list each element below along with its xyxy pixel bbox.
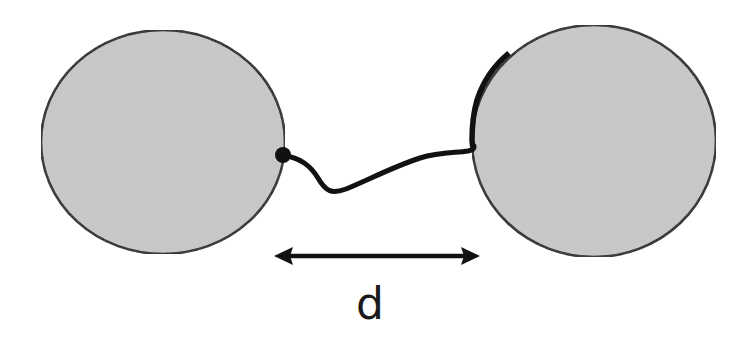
distance-label: d [346, 280, 394, 328]
anchor-point [275, 147, 291, 163]
distance-arrow [274, 247, 480, 265]
right-sphere [472, 25, 716, 257]
tether-line [283, 146, 474, 191]
left-sphere [41, 30, 285, 254]
